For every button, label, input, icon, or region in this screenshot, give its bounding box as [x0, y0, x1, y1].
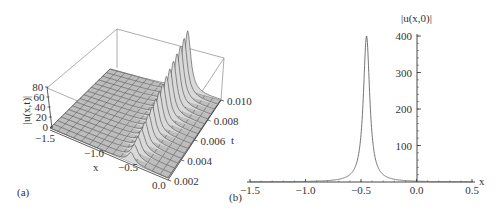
- panel-label-b: (b): [229, 191, 242, 204]
- panel-label-a: (a): [17, 186, 30, 199]
- y-tick-label: 300: [396, 67, 413, 79]
- y-axis-label-b: |u(x,0)|: [401, 12, 432, 25]
- t-tick: [221, 100, 224, 101]
- x-tick-label: 0.5: [465, 184, 479, 196]
- x-tick-label: −1.5: [35, 132, 55, 144]
- t-tick-label: 0.004: [187, 155, 212, 167]
- t-tick: [208, 120, 211, 121]
- y-tick-label: 200: [396, 103, 413, 115]
- x-tick-label: −0.5: [118, 161, 138, 173]
- t-tick-label: 0.008: [214, 115, 239, 127]
- t-tick-label: 0.006: [201, 135, 226, 147]
- x-tick-label: −1.0: [296, 184, 316, 196]
- t-tick-label: 0.002: [174, 175, 199, 187]
- t-tick-label: 0.010: [227, 95, 252, 107]
- y-tick-label: 100: [396, 140, 413, 152]
- x-tick-label: 0.0: [410, 184, 424, 196]
- x-tick-label: −1.5: [240, 184, 260, 196]
- panel-a-surface-plot: 020406080 |u(x,t)| −1.5−1.0−0.50.0 x 0.0…: [17, 29, 252, 199]
- figure-canvas: 020406080 |u(x,t)| −1.5−1.0−0.50.0 x 0.0…: [0, 0, 503, 217]
- data-line: [250, 36, 472, 182]
- z-tick-label: 80: [32, 81, 44, 93]
- x-axis-label: x: [93, 161, 99, 173]
- panel-b-line-plot: −1.5−1.0−0.50.00.5 x 100200300400 |u(x,0…: [229, 12, 485, 204]
- x-axis-label-b: x: [479, 175, 485, 187]
- t-tick: [181, 160, 184, 161]
- t-tick: [168, 180, 171, 181]
- x-tick-label: −1.0: [84, 147, 104, 159]
- x-tick-label: 0.0: [152, 179, 166, 191]
- t-tick: [195, 140, 198, 141]
- z-axis-label: |u(x,t)|: [20, 96, 33, 125]
- y-tick-label: 400: [396, 30, 413, 42]
- x-tick-label: −0.5: [351, 184, 371, 196]
- t-axis-label: t: [231, 134, 234, 146]
